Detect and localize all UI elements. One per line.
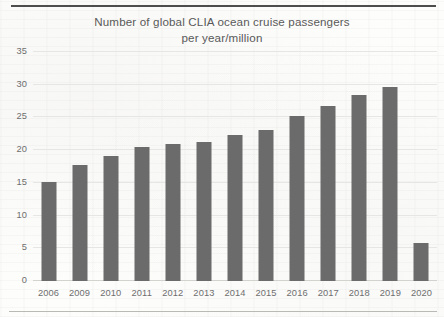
bar-group[interactable]: 2015 <box>251 52 282 281</box>
bar-2020[interactable] <box>414 243 429 281</box>
bar-2011[interactable] <box>134 147 149 281</box>
bar-group[interactable]: 2010 <box>95 52 126 281</box>
bar-group[interactable]: 2018 <box>344 52 375 281</box>
bar-2012[interactable] <box>165 144 180 281</box>
bar-group[interactable]: 2012 <box>157 52 188 281</box>
bar-2019[interactable] <box>383 87 398 281</box>
x-axis-tick-label: 2015 <box>256 288 277 298</box>
bar-group[interactable]: 2016 <box>282 52 313 281</box>
x-axis-tick-label: 2014 <box>224 288 245 298</box>
bar-series: 2006200920102011201220132014201520162017… <box>33 52 437 281</box>
x-axis-tick-label: 2010 <box>100 288 121 298</box>
x-axis-tick-label: 2018 <box>349 288 370 298</box>
y-axis-tick-label: 15 <box>16 177 27 187</box>
y-axis-tick-label: 10 <box>16 210 27 220</box>
bar-group[interactable]: 2019 <box>375 52 406 281</box>
x-axis-tick-label: 2019 <box>380 288 401 298</box>
bar-group[interactable]: 2020 <box>406 52 437 281</box>
bar-2014[interactable] <box>227 135 242 281</box>
y-axis-tick-label: 25 <box>16 111 27 121</box>
bar-2015[interactable] <box>259 130 274 281</box>
bar-group[interactable]: 2013 <box>188 52 219 281</box>
x-axis-tick-label: 2009 <box>69 288 90 298</box>
bar-2006[interactable] <box>41 182 56 281</box>
x-axis-tick-label: 2012 <box>162 288 183 298</box>
x-axis-tick-label: 2011 <box>132 288 152 298</box>
y-axis-tick-label: 30 <box>16 79 27 89</box>
y-axis-tick-label: 35 <box>16 46 27 56</box>
bar-group[interactable]: 2006 <box>33 52 64 281</box>
bar-group[interactable]: 2011 <box>126 52 157 281</box>
bar-2010[interactable] <box>103 156 118 281</box>
bar-2009[interactable] <box>72 165 87 281</box>
y-axis-tick-label: 5 <box>22 242 27 252</box>
x-axis-tick-label: 2016 <box>287 288 308 298</box>
x-axis-tick-label: 2017 <box>318 288 339 298</box>
chart-title: Number of global CLIA ocean cruise passe… <box>46 14 398 45</box>
bar-group[interactable]: 2009 <box>64 52 95 281</box>
bar-group[interactable]: 2014 <box>219 52 250 281</box>
bar-2018[interactable] <box>352 95 367 281</box>
y-axis-tick-label: 20 <box>16 144 27 154</box>
bar-2013[interactable] <box>196 142 211 281</box>
x-axis-tick-label: 2020 <box>411 288 432 298</box>
x-axis-tick-label: 2006 <box>38 288 59 298</box>
bar-group[interactable]: 2017 <box>313 52 344 281</box>
y-axis-tick-label: 0 <box>22 275 27 285</box>
top-horizontal-rule <box>11 5 436 7</box>
chart-page: Number of global CLIA ocean cruise passe… <box>0 0 444 317</box>
x-axis-tick-label: 2013 <box>193 288 214 298</box>
bar-2016[interactable] <box>290 116 305 281</box>
plot-area: 05101520253035 2006200920102011201220132… <box>33 52 437 281</box>
bar-2017[interactable] <box>321 106 336 281</box>
bottom-horizontal-rule <box>9 311 437 312</box>
